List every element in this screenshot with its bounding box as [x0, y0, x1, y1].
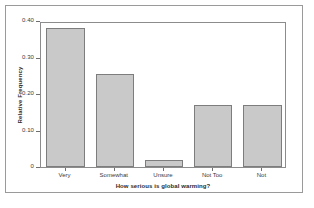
plot-panel: [40, 22, 286, 168]
x-axis-tick-mark: [65, 168, 66, 171]
x-axis-tick-label: Not: [237, 172, 286, 178]
y-axis-tick-label: 0.10: [22, 127, 34, 133]
x-axis-tick: Not Too: [188, 168, 237, 182]
y-axis-tick-label: 0.20: [22, 90, 34, 96]
x-axis-tick-label: Very: [40, 172, 89, 178]
bars-layer: [41, 23, 285, 167]
x-axis-tick-label: Not Too: [188, 172, 237, 178]
bar: [145, 160, 183, 167]
x-axis-tick-label: Unsure: [138, 172, 187, 178]
x-axis-tick-mark: [163, 168, 164, 171]
y-axis-tick-label: 0.30: [22, 54, 34, 60]
bar: [243, 105, 281, 167]
y-axis: 0.400.300.200.100: [0, 0, 40, 190]
x-axis-tick-mark: [261, 168, 262, 171]
x-axis-tick: Somewhat: [89, 168, 138, 182]
bar: [194, 105, 232, 167]
x-axis-tick: Very: [40, 168, 89, 182]
y-axis-tick-label: 0: [31, 163, 34, 169]
x-axis-tick-label: Somewhat: [89, 172, 138, 178]
bar: [46, 28, 84, 167]
x-axis: VerySomewhatUnsureNot TooNot: [40, 168, 286, 182]
x-axis-tick: Unsure: [138, 168, 187, 182]
x-axis-tick-mark: [114, 168, 115, 171]
x-axis-tick-mark: [212, 168, 213, 171]
figure-canvas: Relative Frequency 0.400.300.200.100 Ver…: [0, 0, 314, 208]
bar: [96, 74, 134, 167]
x-axis-tick: Not: [237, 168, 286, 182]
x-axis-title: How serious is global warming?: [40, 183, 286, 189]
y-axis-tick-label: 0.40: [22, 17, 34, 23]
